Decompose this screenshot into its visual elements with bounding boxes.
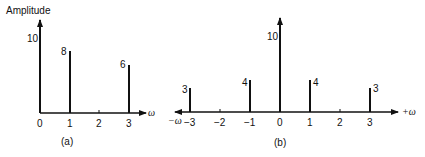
tick-label: 2 — [96, 118, 102, 129]
stem-label: 10 — [27, 33, 39, 44]
panel-b: −ω +ω −3 −2 −1 0 1 2 3 3 4 10 4 3 (b) — [168, 18, 416, 148]
y-axis-label: Amplitude — [6, 5, 51, 16]
tick-label: 0 — [37, 118, 43, 129]
x-axis-label-negative: −ω — [168, 115, 182, 126]
panel-a: Amplitude ω 0 1 2 3 10 8 6 (a) — [6, 5, 155, 147]
tick-label: −3 — [184, 117, 196, 128]
caption-b: (b) — [274, 137, 286, 148]
x-axis-label-positive: +ω — [402, 106, 416, 117]
stem-label: 3 — [373, 83, 379, 94]
tick-label: 0 — [277, 117, 283, 128]
spectrum-diagram: Amplitude ω 0 1 2 3 10 8 6 (a) −ω +ω −3 … — [0, 0, 425, 157]
stem-label: 10 — [267, 31, 279, 42]
stem-label: 8 — [61, 46, 67, 57]
caption-a: (a) — [61, 136, 73, 147]
tick-label: 2 — [337, 117, 343, 128]
tick-label: 3 — [367, 117, 373, 128]
tick-label: −1 — [244, 117, 256, 128]
stem-label: 3 — [182, 84, 188, 95]
tick-label: −2 — [214, 117, 226, 128]
tick-label: 3 — [126, 118, 132, 129]
stem-label: 6 — [120, 59, 126, 70]
x-axis-label: ω — [148, 107, 155, 118]
tick-label: 1 — [67, 118, 73, 129]
stem-label: 4 — [242, 77, 248, 88]
tick-label: 1 — [307, 117, 313, 128]
stem-label: 4 — [313, 77, 319, 88]
